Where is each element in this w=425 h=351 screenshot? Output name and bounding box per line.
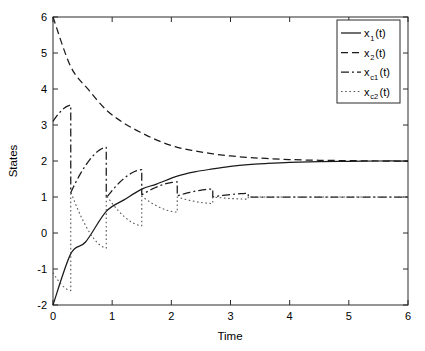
legend-label-base: x: [364, 86, 370, 98]
series-line-xc1t: [53, 105, 408, 198]
series-line-x1t: [53, 161, 408, 305]
x-tick-label: 0: [50, 310, 56, 322]
legend-label-subscript: c1: [370, 73, 378, 82]
chart-figure: -2-10123456 0123456 Time States x1(t)x2(…: [0, 0, 425, 351]
y-tick-label: -1: [37, 263, 47, 275]
y-tick-label: 0: [41, 227, 47, 239]
y-tick-label: 6: [41, 11, 47, 23]
y-axis-title: States: [7, 144, 19, 177]
x-tick-label: 3: [227, 310, 233, 322]
x-tick-label: 1: [109, 310, 115, 322]
legend-label-suffix: (t): [375, 27, 385, 39]
x-tick-label: 4: [287, 310, 293, 322]
legend-label-base: x: [364, 27, 370, 39]
legend-label-base: x: [364, 47, 370, 59]
x-tick-label: 2: [168, 310, 174, 322]
legend-label-suffix: (t): [380, 86, 390, 98]
series-line-xc2t: [53, 192, 408, 291]
plot-canvas: -2-10123456 0123456 Time States x1(t)x2(…: [0, 0, 425, 351]
legend-label-base: x: [364, 66, 370, 78]
x-tick-label: 5: [346, 310, 352, 322]
y-tick-label: 3: [41, 119, 47, 131]
legend-label-subscript: 2: [370, 53, 374, 62]
y-tick-label: 1: [41, 191, 47, 203]
legend-label-suffix: (t): [375, 47, 385, 59]
x-tick-label: 6: [405, 310, 411, 322]
chart-legend: x1(t)x2(t)xc1(t)xc2(t): [337, 20, 400, 103]
legend-label-suffix: (t): [380, 66, 390, 78]
y-tick-label: 2: [41, 155, 47, 167]
y-tick-label: 4: [41, 83, 47, 95]
legend-label-subscript: 1: [370, 34, 374, 43]
y-tick-label: -2: [37, 299, 47, 311]
legend-label-subscript: c2: [370, 92, 378, 101]
x-axis-title: Time: [217, 330, 242, 342]
y-tick-label: 5: [41, 47, 47, 59]
